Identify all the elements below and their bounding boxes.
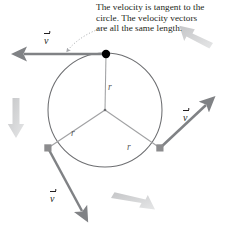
motion-arrow-left bbox=[8, 98, 24, 138]
particle-lower-right bbox=[156, 144, 163, 151]
caption-text: The velocity is tangent to the circle. T… bbox=[96, 2, 228, 34]
velocity-label-lower-left: v bbox=[50, 194, 54, 204]
caption-line-1: The velocity is tangent to the bbox=[96, 2, 228, 13]
velocity-label-top-text: v bbox=[44, 36, 48, 46]
radius-line-lower-right bbox=[105, 110, 160, 148]
velocity-label-lower-left-text: v bbox=[50, 194, 54, 204]
radius-label-top: r bbox=[108, 83, 112, 93]
velocity-label-right-text: v bbox=[183, 113, 187, 123]
velocity-label-right: v bbox=[183, 113, 187, 123]
particle-top bbox=[102, 50, 110, 58]
radius-line-lower-left bbox=[48, 110, 105, 148]
circle-center-dot bbox=[104, 109, 107, 112]
particle-lower-left bbox=[44, 144, 51, 151]
figure-canvas bbox=[0, 0, 230, 228]
radius-label-lower-right: r bbox=[127, 143, 131, 153]
caption-line-2: circle. The velocity vectors bbox=[96, 13, 228, 24]
circular-motion-figure: The velocity is tangent to the circle. T… bbox=[0, 0, 230, 228]
caption-line-3: are all the same length. bbox=[96, 23, 228, 34]
motion-arrow-bottom bbox=[111, 192, 155, 209]
radius-label-lower-left: r bbox=[71, 129, 75, 139]
radius-line-top bbox=[105, 54, 106, 110]
velocity-label-top: v bbox=[44, 36, 48, 46]
